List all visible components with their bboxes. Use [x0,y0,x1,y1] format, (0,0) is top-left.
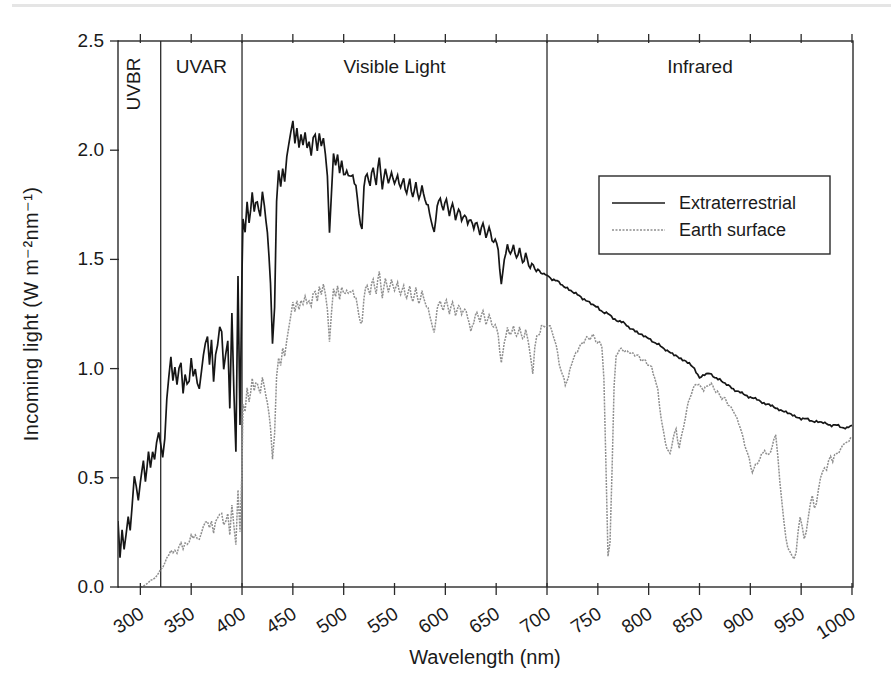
x-axis-title: Wavelength (nm) [409,646,561,669]
x-tick-label-550: 550 [364,603,402,638]
x-tick-label-600: 600 [414,603,452,638]
x-tick-label-400: 400 [211,603,249,638]
x-tick-label-850: 850 [669,603,707,638]
y-tick-label-2.0: 2.0 [78,139,104,160]
y-tick-label-0.5: 0.5 [78,467,104,488]
x-tick-label-1000: 1000 [812,603,859,644]
region-label-uvbr: UVBR [123,58,144,111]
region-label-uvar: UVAR [176,56,227,77]
y-tick-label-1.0: 1.0 [78,358,104,379]
x-tick-label-900: 900 [719,603,757,638]
y-axis-title: Incoming light (W m⁻²nm⁻¹) [19,187,43,441]
x-tick-label-350: 350 [160,603,198,638]
legend-label-extraterrestrial: Extraterrestrial [679,193,796,213]
region-label-infrared: Infrared [667,56,732,77]
x-tick-label-700: 700 [516,603,554,638]
legend-box [599,176,830,254]
scan-edge-artifact [12,4,891,7]
chart-canvas: 3003504004505005506006507007508008509009… [0,0,891,694]
region-label-visible-light: Visible Light [343,56,446,77]
x-tick-label-450: 450 [262,603,300,638]
x-tick-label-650: 650 [465,603,503,638]
x-tick-label-300: 300 [110,603,148,638]
plot-frame [118,41,853,587]
x-tick-label-950: 950 [770,603,808,638]
legend-label-earth-surface: Earth surface [679,220,786,240]
earth-surface-curve [140,271,852,587]
x-tick-label-800: 800 [618,603,656,638]
y-tick-label-1.5: 1.5 [78,248,104,269]
x-tick-label-750: 750 [567,603,605,638]
legend: ExtraterrestrialEarth surface [599,176,830,254]
y-tick-label-2.5: 2.5 [78,30,104,51]
solar-spectrum-figure: Incoming light (W m⁻²nm⁻¹) 3003504004505… [0,0,891,694]
y-tick-label-0.0: 0.0 [78,576,104,597]
x-tick-label-500: 500 [313,603,351,638]
